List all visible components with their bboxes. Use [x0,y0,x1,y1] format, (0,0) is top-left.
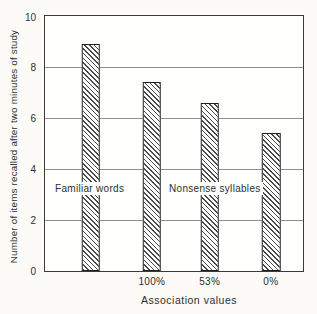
y-tick-label: 4 [30,163,36,174]
y-tick-label: 10 [25,11,36,22]
x-tick-label: 100% [139,276,166,287]
x-axis-title: Association values [141,294,237,306]
bar-1 [82,44,101,271]
x-axis-ticks: 100%53%0% [46,276,303,289]
y-tick-label: 0 [30,265,36,276]
x-tick-label: 53% [199,276,220,287]
bar-chart-figure: Number of items recalled after two minut… [0,0,317,314]
y-tick-label: 6 [30,113,36,124]
x-tick-label: 0% [263,276,278,287]
y-tick-label: 2 [30,214,36,225]
plot-area: Familiar words Nonsense syllables [44,15,304,272]
y-axis-ticks: 0246810 [0,17,40,271]
bar-2 [143,82,162,271]
group-label-familiar-words: Familiar words [53,182,126,195]
y-tick-label: 8 [30,62,36,73]
group-label-nonsense-syllables: Nonsense syllables [167,182,263,195]
bar-4 [262,133,281,271]
